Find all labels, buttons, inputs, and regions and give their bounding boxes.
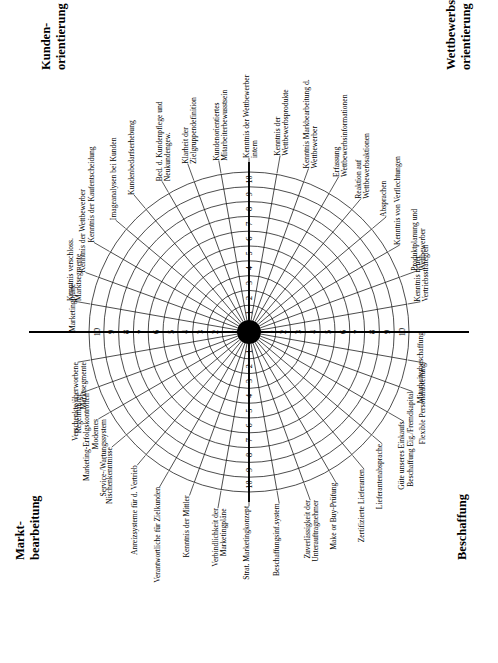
- axis-tick-left-7: 7: [137, 330, 146, 334]
- svg-text:Neukundengew.: Neukundengew.: [163, 132, 172, 181]
- svg-text:5: 5: [245, 251, 254, 255]
- svg-text:Kunden-: Kunden-: [39, 23, 53, 70]
- svg-text:4: 4: [309, 329, 318, 334]
- svg-text:Beschaffungsinf.system: Beschaffungsinf.system: [272, 503, 281, 576]
- axis-tick-left-6: 6: [152, 330, 161, 334]
- label-leader-line: [277, 491, 279, 504]
- svg-text:Kenntnis der Mittler: Kenntnis der Mittler: [182, 495, 191, 557]
- axis-tick-down-9: 9: [245, 468, 254, 472]
- svg-text:2: 2: [245, 296, 254, 300]
- quadrant-title-kundenorientierung: Kunden-orientierung: [39, 3, 68, 70]
- svg-text:2: 2: [211, 330, 220, 334]
- axis-tick-up-10: 10: [245, 175, 254, 183]
- svg-text:8: 8: [245, 207, 254, 211]
- svg-text:8: 8: [368, 330, 377, 334]
- svg-text:Kundenbedarfserhebung: Kundenbedarfserhebung: [127, 120, 136, 195]
- svg-text:3: 3: [294, 330, 303, 334]
- svg-text:Strat. Marketingkonzept: Strat. Marketingkonzept: [242, 505, 251, 580]
- svg-text:Kenntnis von Verflechtungen: Kenntnis von Verflechtungen: [393, 156, 402, 245]
- category-label: Reaktion aufWettbewerbsaktionen: [354, 133, 371, 199]
- axis-tick-left-2: 2: [211, 330, 220, 334]
- axis-tick-right-9: 9: [383, 330, 392, 334]
- label-leader-line: [94, 243, 110, 252]
- category-label: Beschaffungsinf.system: [272, 503, 281, 576]
- label-leader-line: [372, 217, 386, 229]
- axis-tick-up-7: 7: [245, 222, 254, 226]
- radar-chart-svg: 1234567891012345678910123456789101234567…: [0, 0, 498, 663]
- category-label: Bed. d. Kundenpflege undNeukundengew.: [155, 101, 172, 181]
- axis-tick-left-1: 1: [226, 330, 235, 334]
- category-label: Kundenbedarfserhebung: [127, 120, 136, 195]
- svg-text:6: 6: [152, 330, 161, 334]
- label-leader-line: [352, 455, 364, 469]
- category-label: Zertifizierte Lieferanten: [357, 469, 366, 542]
- label-leader-line: [388, 413, 404, 422]
- svg-text:Anreizsysteme für d. Vertrieb: Anreizsysteme für d. Vertrieb: [130, 465, 139, 555]
- svg-text:9: 9: [245, 192, 254, 196]
- svg-text:10: 10: [93, 328, 102, 336]
- svg-text:7: 7: [245, 438, 254, 442]
- svg-text:10: 10: [245, 175, 254, 183]
- category-label: Strat. Marketingkonzept: [242, 505, 251, 580]
- category-label: Verantwortliche für Zielkunden: [153, 487, 162, 583]
- svg-text:6: 6: [245, 423, 254, 427]
- svg-text:Zertifizierte Lieferanten: Zertifizierte Lieferanten: [357, 469, 366, 542]
- axis-tick-up-1: 1: [245, 311, 254, 315]
- svg-text:9: 9: [245, 468, 254, 472]
- axis-tick-down-1: 1: [245, 349, 254, 353]
- label-leader-line: [304, 168, 308, 180]
- svg-text:Marketing-Erfolgskontrollen: Marketing-Erfolgskontrollen: [82, 393, 91, 481]
- category-label: Kenntnis Markbearbeitung d.Wettbewerber: [302, 79, 319, 168]
- axis-tick-right-3: 3: [294, 330, 303, 334]
- svg-text:3: 3: [196, 330, 205, 334]
- svg-text:Mitarbeiterbewusstsein: Mitarbeiterbewusstsein: [220, 90, 229, 161]
- svg-text:Verantwortliche für Zielkunden: Verantwortliche für Zielkunden: [153, 487, 162, 583]
- axis-tick-down-6: 6: [245, 423, 254, 427]
- svg-text:Make or Buy-Prüfung: Make or Buy-Prüfung: [329, 482, 338, 549]
- svg-text:1: 1: [245, 311, 254, 315]
- axis-tick-up-5: 5: [245, 251, 254, 255]
- category-label: Marketingpläne: [68, 283, 77, 332]
- svg-text:3: 3: [245, 379, 254, 383]
- label-leader-line: [116, 220, 126, 228]
- svg-text:Beschaffung Eig./Fremdkapital: Beschaffung Eig./Fremdkapital: [406, 392, 415, 487]
- svg-text:3: 3: [245, 281, 254, 285]
- svg-text:4: 4: [181, 329, 190, 334]
- svg-text:5: 5: [245, 409, 254, 413]
- category-label: Mitarbeiterbeschaffung: [416, 332, 425, 403]
- category-label: Make or Buy-Prüfung: [329, 482, 338, 549]
- svg-text:Marketingpläne: Marketingpläne: [219, 508, 228, 557]
- category-label: Kenntnis der Wettbewerberintern: [242, 74, 259, 158]
- quadrant-title-beschaffung: Beschaffung: [455, 493, 469, 560]
- axis-tick-right-4: 4: [309, 329, 318, 334]
- category-label: Kenntnis der Mittler: [182, 495, 191, 557]
- svg-text:Kenntnis der Kaufentscheidung: Kenntnis der Kaufentscheidung: [87, 146, 96, 242]
- axis-tick-down-2: 2: [245, 364, 254, 368]
- category-label: Kenntnis der Kaufentscheidung: [87, 146, 96, 242]
- svg-text:Wettbewerbsaktionen: Wettbewerbsaktionen: [362, 133, 371, 199]
- axis-tick-left-4: 4: [181, 329, 190, 334]
- svg-text:bearbeitung: bearbeitung: [28, 495, 42, 560]
- svg-text:1: 1: [265, 330, 274, 334]
- svg-text:Wettbewerbsprodukte: Wettbewerbsprodukte: [281, 89, 290, 156]
- label-leader-line: [78, 360, 91, 362]
- label-leader-line: [304, 483, 310, 500]
- category-label: KundenorientiertesMitarbeiterbewusstsein: [212, 90, 229, 161]
- axis-tick-right-5: 5: [324, 330, 333, 334]
- label-leader-line: [352, 199, 360, 209]
- category-label: Kenntnis derWettbewerbsprodukte: [273, 89, 290, 156]
- axis-tick-left-9: 9: [107, 330, 116, 334]
- svg-text:7: 7: [245, 222, 254, 226]
- axis-tick-up-6: 6: [245, 237, 254, 241]
- label-leader-line: [112, 435, 126, 447]
- svg-text:10: 10: [398, 328, 407, 336]
- axis-tick-up-9: 9: [245, 192, 254, 196]
- category-label: ErfassungWettbewerbsinformationen: [332, 94, 349, 177]
- svg-text:Beschaffung: Beschaffung: [455, 493, 469, 560]
- category-label: Verbindlichkeit derMarketingpläne: [211, 508, 228, 567]
- svg-text:8: 8: [245, 453, 254, 457]
- quadrant-title-marktbearbeitung: Markt-bearbeitung: [13, 495, 42, 560]
- svg-text:7: 7: [137, 330, 146, 334]
- label-leader-line: [400, 387, 412, 391]
- label-leader-line: [330, 177, 339, 193]
